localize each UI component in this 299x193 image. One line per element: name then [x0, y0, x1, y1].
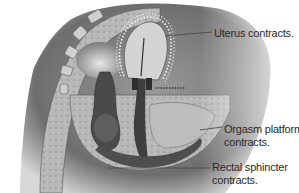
- label-orgasm-line1: Orgasm platform: [224, 123, 299, 136]
- label-rectal-line1: Rectal sphincter: [212, 161, 288, 174]
- label-rectal-sphincter-contracts: Rectal sphincter contracts.: [212, 161, 288, 187]
- anatomy-diagram: Uterus contracts. Orgasm platform contra…: [0, 0, 299, 193]
- label-uterus-contracts: Uterus contracts.: [214, 27, 294, 40]
- label-orgasm-platform-contracts: Orgasm platform contracts.: [224, 123, 299, 149]
- label-rectal-line2: contracts.: [212, 174, 288, 187]
- rectal-ampulla: [94, 114, 118, 142]
- label-orgasm-line2: contracts.: [224, 136, 299, 149]
